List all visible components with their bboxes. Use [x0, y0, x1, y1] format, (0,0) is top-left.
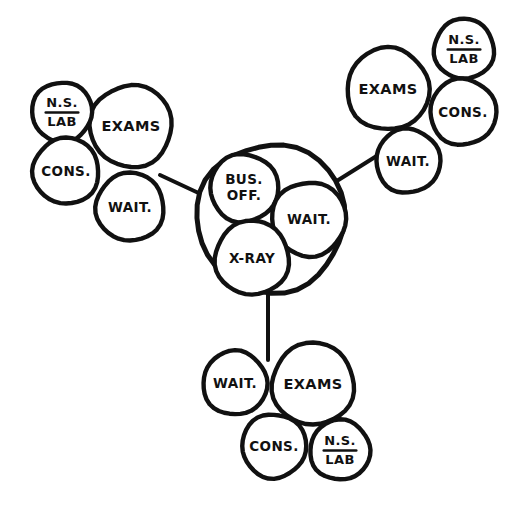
hub-layer: BUS.OFF.WAIT.X-RAY	[197, 145, 346, 295]
bubble-label: CONS.	[41, 163, 91, 179]
bubble-label-ns: N.S.	[324, 433, 356, 448]
bubble-label: WAIT.	[108, 199, 152, 215]
bubble-bot-exams[interactable]: EXAMS	[272, 343, 354, 425]
bubble-label: WAIT.	[213, 375, 257, 391]
bubble-bot-wait[interactable]: WAIT.	[204, 350, 268, 414]
bubble-hub-bus-off[interactable]: BUS.OFF.	[210, 154, 278, 222]
bubble-label: X-RAY	[229, 250, 275, 266]
bubble-diagram: BUS.OFF.WAIT.X-RAY EXAMSN.S.LABCONS.WAIT…	[0, 0, 521, 510]
bubble-hub-xray[interactable]: X-RAY	[215, 221, 289, 295]
bubble-label-line2: OFF.	[227, 187, 262, 203]
bubble-label: EXAMS	[358, 81, 417, 97]
bubble-label-ns: N.S.	[448, 32, 480, 47]
bubble-tr-wait[interactable]: WAIT.	[376, 128, 440, 192]
bubble-bot-nslab[interactable]: N.S.LAB	[310, 419, 370, 479]
bubble-bot-cons[interactable]: CONS.	[242, 415, 306, 479]
bubble-label: WAIT.	[386, 153, 430, 169]
bubble-tr-nslab[interactable]: N.S.LAB	[434, 19, 494, 79]
bubble-left-wait[interactable]: WAIT.	[95, 173, 163, 241]
diagram-canvas: BUS.OFF.WAIT.X-RAY EXAMSN.S.LABCONS.WAIT…	[0, 0, 521, 510]
bubble-label: EXAMS	[283, 376, 342, 392]
northeast-exam-cluster[interactable]: EXAMSN.S.LABCONS.WAIT.	[348, 19, 497, 193]
bubble-label-ns: N.S.	[46, 95, 78, 110]
bubble-tr-cons[interactable]: CONS.	[430, 79, 496, 145]
bubble-left-nslab[interactable]: N.S.LAB	[32, 83, 92, 143]
bubble-label: CONS.	[249, 438, 299, 454]
bubble-tr-exams[interactable]: EXAMS	[348, 47, 430, 129]
bubble-label-lab: LAB	[325, 452, 354, 467]
bubble-label: CONS.	[438, 104, 488, 120]
bubble-label-lab: LAB	[47, 114, 76, 129]
bubble-label-lab: LAB	[449, 51, 478, 66]
bubble-label: WAIT.	[287, 211, 331, 227]
south-exam-cluster[interactable]: EXAMSWAIT.CONS.N.S.LAB	[204, 343, 371, 480]
west-exam-cluster[interactable]: EXAMSN.S.LABCONS.WAIT.	[32, 83, 171, 241]
core-services-hub[interactable]: BUS.OFF.WAIT.X-RAY	[197, 145, 346, 295]
bubble-left-exams[interactable]: EXAMS	[90, 85, 172, 167]
bubble-label-line1: BUS.	[225, 171, 263, 187]
bubble-left-cons[interactable]: CONS.	[32, 137, 98, 203]
bubble-label: EXAMS	[101, 118, 160, 134]
